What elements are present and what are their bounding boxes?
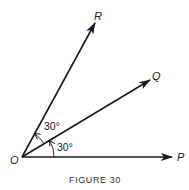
- figure-caption: FIGURE 30: [69, 175, 121, 185]
- geometry-diagram: O P Q R 30° 30° FIGURE 30: [0, 0, 189, 190]
- ray-or: [22, 23, 95, 157]
- angle-arc-qr: [35, 134, 44, 144]
- angle-arc-pq: [50, 141, 54, 157]
- point-p-label: P: [177, 151, 185, 163]
- ray-oq: [22, 80, 150, 157]
- origin-label: O: [10, 154, 19, 166]
- angle-qr-label: 30°: [44, 120, 60, 132]
- angle-pq-label: 30°: [57, 141, 73, 153]
- point-r-label: R: [94, 10, 102, 22]
- point-q-label: Q: [152, 70, 161, 82]
